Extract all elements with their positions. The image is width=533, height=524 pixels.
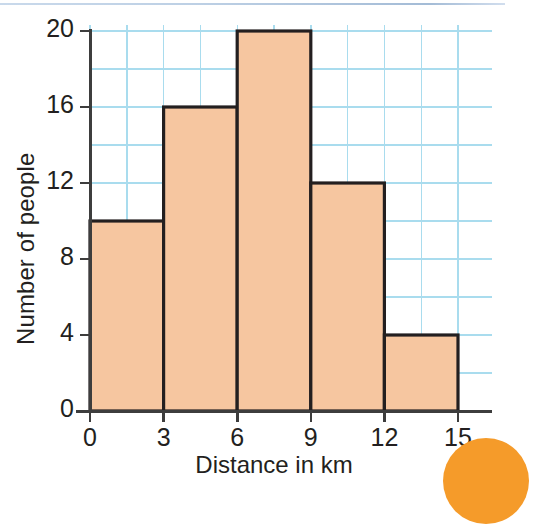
x-tick-label: 9 — [286, 423, 336, 452]
y-axis-label: Number of people — [12, 153, 40, 345]
x-tick-label: 0 — [65, 423, 115, 452]
y-tick-label: 0 — [60, 394, 74, 423]
histogram-bar — [164, 107, 238, 411]
x-tick-label: 6 — [212, 423, 262, 452]
x-tick-label: 12 — [359, 423, 409, 452]
histogram-bar — [311, 183, 385, 411]
y-tick-label: 8 — [60, 242, 74, 271]
histogram-bar — [90, 221, 164, 411]
y-tick-label: 20 — [46, 14, 74, 43]
y-tick-label: 4 — [60, 318, 74, 347]
x-tick-label: 3 — [139, 423, 189, 452]
histogram-bar — [237, 31, 311, 411]
histogram-bar — [384, 335, 458, 411]
y-tick-label: 16 — [46, 90, 74, 119]
corner-decoration-circle — [443, 438, 529, 524]
y-tick-label: 12 — [46, 166, 74, 195]
